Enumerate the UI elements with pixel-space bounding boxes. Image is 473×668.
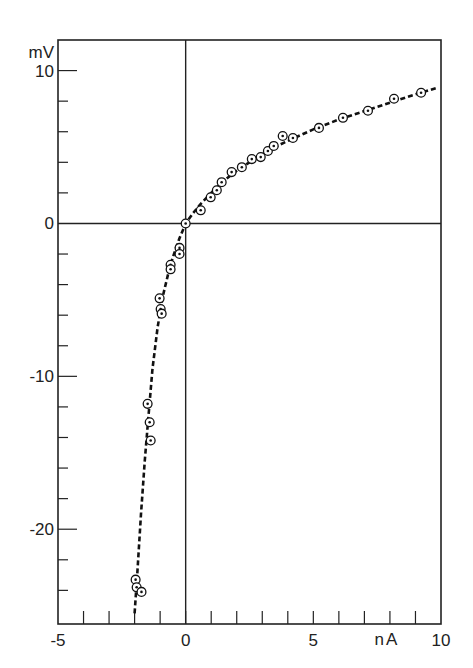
data-point xyxy=(364,106,373,115)
fitted-curve-dashed xyxy=(135,88,436,613)
data-point xyxy=(196,206,205,215)
data-point xyxy=(137,587,146,596)
x-tick-label: 10 xyxy=(432,631,451,650)
data-point xyxy=(157,309,166,318)
plot-frame xyxy=(58,40,441,624)
y-axis-unit-label: mV xyxy=(29,43,55,62)
data-point xyxy=(390,94,399,103)
y-tick-label: 10 xyxy=(35,62,54,81)
data-point xyxy=(247,155,256,164)
data-point xyxy=(217,178,226,187)
zero-axis-lines xyxy=(58,40,441,624)
data-point xyxy=(175,250,184,259)
data-point xyxy=(145,418,154,427)
data-point xyxy=(256,153,265,162)
data-point xyxy=(146,436,155,445)
data-point xyxy=(417,88,426,97)
x-tick-label: -5 xyxy=(50,631,65,650)
data-point xyxy=(289,134,298,143)
data-point xyxy=(315,124,324,133)
data-point xyxy=(155,294,164,303)
data-points xyxy=(131,88,425,596)
axis-tick-labels: -50510100-10-20 xyxy=(29,62,450,650)
y-tick-label: -20 xyxy=(29,520,54,539)
axis-ticks xyxy=(58,71,415,624)
data-point xyxy=(166,265,175,274)
data-point xyxy=(212,186,221,195)
data-point xyxy=(181,219,190,228)
plot-border xyxy=(58,40,441,624)
data-point xyxy=(339,113,348,122)
y-tick-label: -10 xyxy=(29,367,54,386)
data-point xyxy=(278,132,287,141)
x-tick-label: 5 xyxy=(309,631,318,650)
x-axis-unit-label: nA xyxy=(375,630,400,649)
data-point xyxy=(227,168,236,177)
x-tick-label: 0 xyxy=(181,631,190,650)
y-tick-label: 0 xyxy=(45,214,54,233)
data-point xyxy=(143,399,152,408)
data-point xyxy=(269,142,278,151)
data-point xyxy=(237,163,246,172)
iv-chart: -50510100-10-20 mV nA xyxy=(0,0,473,668)
